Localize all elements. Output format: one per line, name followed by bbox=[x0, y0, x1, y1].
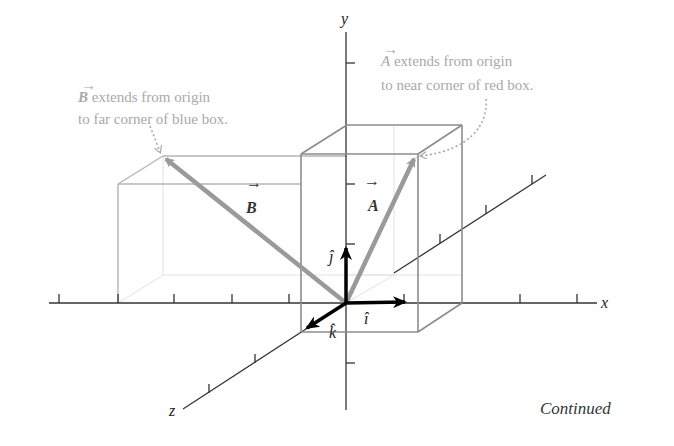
z-axis-label: z bbox=[168, 402, 176, 419]
unit-j-label: ĵ bbox=[327, 248, 335, 266]
continued-label: Continued bbox=[540, 399, 611, 418]
annotation-b-line2: to far corner of blue box. bbox=[78, 111, 228, 127]
blue-box bbox=[118, 156, 347, 303]
unit-k-label: k̂ bbox=[329, 323, 337, 341]
x-axis-label: x bbox=[600, 294, 608, 311]
unit-i-label: î bbox=[364, 310, 370, 327]
vector-b-label: B bbox=[245, 199, 257, 216]
vector-diagram: y x z → A → B ĵ î k̂ B extends from orig… bbox=[0, 0, 674, 446]
unit-vector-k bbox=[307, 303, 346, 328]
vector-a bbox=[346, 159, 414, 303]
vector-a-label: A bbox=[367, 197, 379, 214]
diagram-canvas: y x z → A → B ĵ î k̂ B extends from orig… bbox=[0, 0, 674, 446]
annotation-arrow-b bbox=[150, 126, 160, 152]
annotation-b-line1: B extends from origin bbox=[77, 89, 211, 105]
annotation-a-line2: to near corner of red box. bbox=[381, 77, 533, 93]
annotation-a-text1: extends from origin bbox=[390, 53, 513, 69]
y-axis-label: y bbox=[339, 10, 349, 28]
unit-vector-i bbox=[346, 302, 405, 303]
y-axis bbox=[346, 32, 355, 410]
annotation-a-line1: A extends from origin bbox=[380, 53, 513, 69]
vector-b-arrow: → bbox=[246, 174, 262, 191]
annotation-b-arrow-glyph: → bbox=[81, 77, 96, 93]
annotation-arrow-a bbox=[421, 99, 486, 156]
annotation-b-text1: extends from origin bbox=[88, 89, 211, 105]
annotation-a-arrow-glyph: → bbox=[383, 41, 398, 57]
vector-a-arrow: → bbox=[364, 172, 380, 189]
hidden-edges bbox=[118, 125, 462, 303]
